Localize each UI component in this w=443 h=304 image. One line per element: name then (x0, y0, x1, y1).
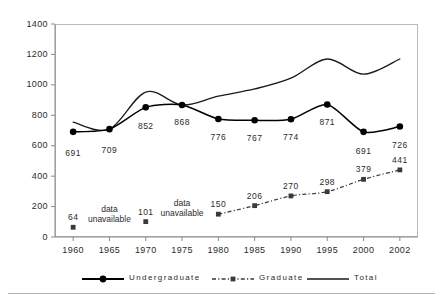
y-axis-tick-label: 1000 (12, 80, 48, 89)
undergraduate-data-label: 774 (274, 133, 308, 142)
graduate-data-label: 270 (274, 182, 308, 191)
data-unavailable-label: dataunavailable (82, 205, 136, 225)
x-axis-tick-label: 2002 (380, 246, 420, 255)
series-undergraduate-line (70, 101, 403, 135)
x-axis-tick-label: 1980 (198, 246, 238, 255)
undergraduate-data-label: 767 (238, 134, 272, 143)
x-axis-tick-label: 1965 (89, 246, 129, 255)
x-axis-tick-label: 1995 (307, 246, 347, 255)
undergraduate-data-label: 691 (347, 147, 381, 156)
data-unavailable-label: dataunavailable (155, 199, 209, 219)
x-axis-tick-label: 2000 (344, 246, 384, 255)
legend-label: Graduate (259, 273, 304, 282)
legend-item-graduate[interactable]: Graduate (210, 268, 304, 286)
x-axis-tick-label: 1975 (162, 246, 202, 255)
graduate-data-label: 379 (347, 165, 381, 174)
y-axis-tick-label: 1200 (12, 50, 48, 59)
y-axis-tick-label: 800 (12, 111, 48, 120)
undergraduate-data-label: 776 (201, 133, 235, 142)
data-unavailable-line2: unavailable (155, 209, 209, 219)
undergraduate-data-label: 852 (129, 122, 163, 131)
data-unavailable-line2: unavailable (82, 215, 136, 225)
undergraduate-data-label: 868 (165, 118, 199, 127)
legend-label: Undergraduate (129, 273, 201, 282)
y-axis-tick-label: 200 (12, 202, 48, 211)
x-axis-tick-label: 1970 (126, 246, 166, 255)
graduate-data-label: 298 (310, 178, 344, 187)
y-axis-tick-label: 400 (12, 172, 48, 181)
footer-divider (8, 293, 435, 294)
legend-item-undergraduate[interactable]: Undergraduate (80, 268, 201, 286)
y-axis-tick-label: 0 (12, 233, 48, 242)
chart-figure: 1400120010008006004002000 19601965197019… (0, 0, 443, 304)
chart-legend: UndergraduateGraduateTotal (0, 268, 443, 286)
undergraduate-data-label: 871 (310, 118, 344, 127)
x-axis-tick-label: 1960 (53, 246, 93, 255)
undergraduate-data-label: 726 (383, 141, 417, 150)
y-axis-tick-label: 600 (12, 141, 48, 150)
legend-key-icon (305, 271, 351, 283)
undergraduate-data-label: 709 (92, 146, 126, 155)
x-axis-tick-label: 1985 (235, 246, 275, 255)
legend-key-icon (80, 271, 126, 283)
legend-label: Total (354, 273, 378, 282)
graduate-data-label: 441 (383, 156, 417, 165)
undergraduate-data-label: 691 (56, 149, 90, 158)
y-axis-tick-label: 1400 (12, 20, 48, 29)
x-axis-tick-label: 1990 (271, 246, 311, 255)
legend-item-total[interactable]: Total (305, 268, 378, 286)
graduate-data-label: 206 (238, 192, 272, 201)
legend-key-icon (210, 271, 256, 283)
